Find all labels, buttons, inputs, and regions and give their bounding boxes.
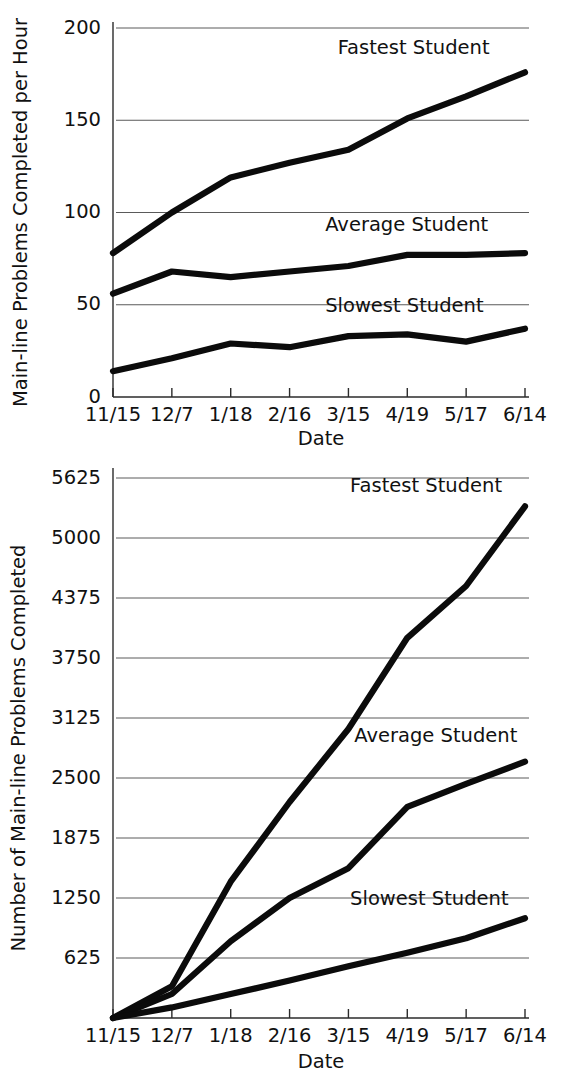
x-axis-tick-label: 3/15 [327,1024,371,1047]
x-axis-tick-label: 2/16 [268,1024,312,1047]
y-axis-tick-label: 4375 [51,586,101,609]
y-axis-tick-label: 625 [64,946,101,969]
y-axis-tick-label: 50 [76,292,101,315]
y-axis-tick-label: 3750 [51,646,101,669]
y-axis-title: Main-line Problems Completed per Hour [9,17,32,407]
y-axis-title: Number of Main-line Problems Completed [7,545,30,952]
series-annotation: Slowest Student [350,887,509,910]
x-axis-tick-label: 1/18 [209,403,253,426]
x-axis-tick-label: 12/7 [150,403,194,426]
series-annotation: Average Student [354,724,517,747]
y-axis-tick-label: 2500 [51,766,101,789]
x-axis-tick-label: 3/15 [327,403,371,426]
x-axis-tick-label: 5/17 [444,403,488,426]
y-axis-tick-label: 3125 [51,706,101,729]
y-axis-tick-label: 1250 [51,886,101,909]
x-axis-tick-label: 11/15 [85,1024,141,1047]
data-line-average-student [113,253,525,294]
x-axis-tick-label: 4/19 [385,403,429,426]
series-annotation: Fastest Student [338,36,490,59]
data-line-slowest-student [113,329,525,372]
y-axis-tick-label: 200 [64,16,101,39]
x-axis-tick-label: 5/17 [444,1024,488,1047]
data-line-slowest-student [113,918,525,1018]
y-axis-tick-label: 150 [64,108,101,131]
x-axis-tick-label: 11/15 [85,403,141,426]
x-axis-tick-label: 2/16 [268,403,312,426]
x-axis-title: Date [298,1050,345,1073]
cumulative-chart-svg: 6251250187525003125375043755000562511/15… [0,440,572,1084]
x-axis-tick-label: 6/14 [503,1024,547,1047]
rate-chart-svg: 05010015020011/1512/71/182/163/154/195/1… [0,0,572,462]
x-axis-tick-label: 1/18 [209,1024,253,1047]
y-axis-tick-label: 100 [64,200,101,223]
x-axis-tick-label: 4/19 [385,1024,429,1047]
series-annotation: Slowest Student [325,294,484,317]
series-annotation: Fastest Student [350,474,502,497]
cumulative-chart-panel: 6251250187525003125375043755000562511/15… [0,440,572,1084]
y-axis-tick-label: 5000 [51,526,101,549]
x-axis-tick-label: 12/7 [150,1024,194,1047]
x-axis-tick-label: 6/14 [503,403,547,426]
series-annotation: Average Student [325,213,488,236]
rate-chart-panel: 05010015020011/1512/71/182/163/154/195/1… [0,0,572,462]
y-axis-tick-label: 5625 [51,466,101,489]
two-panel-line-chart-figure: 05010015020011/1512/71/182/163/154/195/1… [0,0,572,1084]
y-axis-tick-label: 1875 [51,826,101,849]
